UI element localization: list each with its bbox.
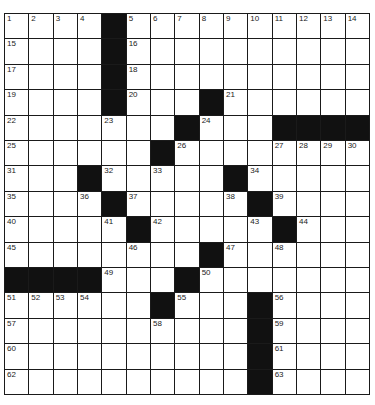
grid-cell[interactable] — [346, 65, 369, 89]
grid-cell[interactable] — [102, 293, 125, 317]
grid-cell[interactable] — [248, 39, 271, 63]
grid-cell[interactable] — [54, 141, 77, 165]
grid-cell[interactable] — [224, 370, 247, 394]
grid-cell[interactable] — [175, 90, 198, 114]
grid-cell[interactable] — [127, 141, 150, 165]
grid-cell[interactable] — [321, 268, 344, 292]
grid-cell[interactable] — [78, 65, 101, 89]
grid-cell[interactable]: 4 — [78, 14, 101, 38]
grid-cell[interactable] — [346, 217, 369, 241]
grid-cell[interactable] — [321, 192, 344, 216]
grid-cell[interactable] — [127, 370, 150, 394]
grid-cell[interactable]: 58 — [151, 319, 174, 343]
grid-cell[interactable] — [346, 243, 369, 267]
grid-cell[interactable] — [321, 65, 344, 89]
grid-cell[interactable] — [78, 217, 101, 241]
grid-cell[interactable] — [29, 370, 52, 394]
grid-cell[interactable]: 17 — [5, 65, 28, 89]
grid-cell[interactable] — [346, 166, 369, 190]
grid-cell[interactable] — [151, 65, 174, 89]
grid-cell[interactable]: 14 — [346, 14, 369, 38]
grid-cell[interactable] — [127, 344, 150, 368]
grid-cell[interactable]: 3 — [54, 14, 77, 38]
grid-cell[interactable] — [346, 293, 369, 317]
grid-cell[interactable] — [127, 268, 150, 292]
grid-cell[interactable] — [78, 141, 101, 165]
grid-cell[interactable]: 22 — [5, 116, 28, 140]
grid-cell[interactable] — [248, 90, 271, 114]
grid-cell[interactable]: 53 — [54, 293, 77, 317]
grid-cell[interactable]: 47 — [224, 243, 247, 267]
grid-cell[interactable]: 60 — [5, 344, 28, 368]
grid-cell[interactable]: 52 — [29, 293, 52, 317]
grid-cell[interactable]: 49 — [102, 268, 125, 292]
grid-cell[interactable]: 23 — [102, 116, 125, 140]
grid-cell[interactable]: 36 — [78, 192, 101, 216]
grid-cell[interactable] — [224, 141, 247, 165]
grid-cell[interactable]: 1 — [5, 14, 28, 38]
grid-cell[interactable]: 46 — [127, 243, 150, 267]
grid-cell[interactable] — [29, 344, 52, 368]
grid-cell[interactable] — [321, 217, 344, 241]
grid-cell[interactable] — [102, 344, 125, 368]
grid-cell[interactable] — [321, 370, 344, 394]
grid-cell[interactable]: 2 — [29, 14, 52, 38]
grid-cell[interactable] — [29, 243, 52, 267]
grid-cell[interactable]: 33 — [151, 166, 174, 190]
grid-cell[interactable]: 5 — [127, 14, 150, 38]
grid-cell[interactable]: 37 — [127, 192, 150, 216]
grid-cell[interactable] — [54, 90, 77, 114]
grid-cell[interactable] — [224, 344, 247, 368]
grid-cell[interactable] — [54, 116, 77, 140]
grid-cell[interactable] — [346, 370, 369, 394]
grid-cell[interactable] — [248, 65, 271, 89]
grid-cell[interactable] — [273, 90, 296, 114]
grid-cell[interactable] — [102, 141, 125, 165]
grid-cell[interactable] — [175, 370, 198, 394]
grid-cell[interactable]: 43 — [248, 217, 271, 241]
grid-cell[interactable] — [151, 39, 174, 63]
grid-cell[interactable] — [151, 243, 174, 267]
grid-cell[interactable] — [200, 141, 223, 165]
grid-cell[interactable] — [78, 39, 101, 63]
grid-cell[interactable]: 6 — [151, 14, 174, 38]
grid-cell[interactable]: 26 — [175, 141, 198, 165]
grid-cell[interactable] — [297, 319, 320, 343]
grid-cell[interactable] — [127, 319, 150, 343]
grid-cell[interactable] — [321, 243, 344, 267]
grid-cell[interactable] — [102, 370, 125, 394]
grid-cell[interactable] — [54, 243, 77, 267]
grid-cell[interactable] — [151, 268, 174, 292]
grid-cell[interactable] — [248, 268, 271, 292]
grid-cell[interactable]: 55 — [175, 293, 198, 317]
grid-cell[interactable] — [346, 319, 369, 343]
grid-cell[interactable] — [175, 344, 198, 368]
grid-cell[interactable] — [224, 65, 247, 89]
grid-cell[interactable]: 41 — [102, 217, 125, 241]
grid-cell[interactable] — [321, 344, 344, 368]
grid-cell[interactable] — [78, 344, 101, 368]
grid-cell[interactable] — [78, 370, 101, 394]
grid-cell[interactable] — [321, 39, 344, 63]
grid-cell[interactable]: 15 — [5, 39, 28, 63]
grid-cell[interactable] — [151, 90, 174, 114]
grid-cell[interactable] — [151, 116, 174, 140]
grid-cell[interactable] — [29, 65, 52, 89]
grid-cell[interactable] — [224, 319, 247, 343]
grid-cell[interactable]: 11 — [273, 14, 296, 38]
grid-cell[interactable] — [29, 90, 52, 114]
grid-cell[interactable] — [151, 192, 174, 216]
grid-cell[interactable]: 29 — [321, 141, 344, 165]
grid-cell[interactable] — [175, 166, 198, 190]
grid-cell[interactable]: 54 — [78, 293, 101, 317]
grid-cell[interactable]: 30 — [346, 141, 369, 165]
grid-cell[interactable] — [248, 141, 271, 165]
grid-cell[interactable]: 35 — [5, 192, 28, 216]
grid-cell[interactable]: 45 — [5, 243, 28, 267]
grid-cell[interactable] — [78, 319, 101, 343]
grid-cell[interactable]: 61 — [273, 344, 296, 368]
grid-cell[interactable]: 9 — [224, 14, 247, 38]
grid-cell[interactable] — [102, 319, 125, 343]
grid-cell[interactable] — [78, 116, 101, 140]
grid-cell[interactable] — [321, 319, 344, 343]
